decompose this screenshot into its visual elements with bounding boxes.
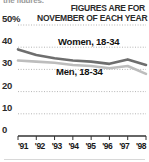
y-axis-tick-label: 10 — [2, 103, 12, 113]
footer-divider — [4, 159, 145, 160]
x-axis-tick-label: '92 — [35, 141, 45, 151]
x-axis-tick-label: '95 — [85, 141, 95, 151]
x-axis-tick-label: '91 — [18, 141, 28, 151]
y-axis-tick-label: 40 — [2, 36, 12, 46]
line-chart-plot — [0, 0, 149, 162]
x-axis-tick-label: '97 — [119, 141, 129, 151]
x-axis-tick-label: '96 — [102, 141, 112, 151]
y-axis-tick-label: 20 — [2, 81, 12, 91]
y-axis-tick-label: 50% — [2, 14, 20, 24]
y-axis-tick-label: 30 — [2, 58, 12, 68]
y-axis-tick-label: 0 — [2, 125, 7, 135]
x-axis-tick-label: '93 — [52, 141, 62, 151]
x-axis-labels: '91'92'93'94'95'96'97'98 — [18, 141, 146, 151]
x-axis-tick-label: '98 — [136, 141, 146, 151]
figure-container: the figures. FIGURES ARE FOR NOVEMBER OF… — [0, 0, 149, 162]
x-axis-tick-label: '94 — [69, 141, 79, 151]
series-label-women: Women, 18-34 — [58, 36, 119, 47]
series-label-men: Men, 18-34 — [56, 66, 103, 77]
